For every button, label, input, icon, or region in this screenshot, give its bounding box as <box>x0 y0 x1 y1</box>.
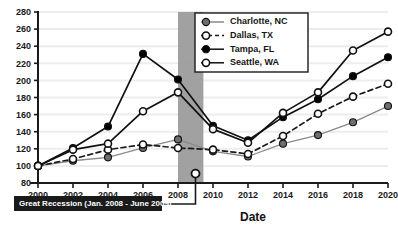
data-point <box>385 54 392 61</box>
data-point <box>350 47 357 54</box>
data-point <box>140 50 147 57</box>
data-point <box>315 132 322 139</box>
legend-marker-icon <box>202 59 209 66</box>
legend-marker-icon <box>202 32 209 39</box>
data-point <box>385 80 392 87</box>
x-axis-tick-label: 2010 <box>203 190 223 200</box>
x-axis-tick-label: 2016 <box>308 190 328 200</box>
chart-canvas: 80100120140160180200220240260280 2000200… <box>0 0 398 227</box>
data-point <box>175 144 182 151</box>
x-axis-tick-label: 2020 <box>378 190 398 200</box>
data-point <box>140 141 147 148</box>
data-point <box>315 96 322 103</box>
data-point <box>210 126 217 133</box>
data-point <box>350 119 357 126</box>
chart-legend[interactable]: Charlotte, NCDallas, TXTampa, FLSeattle,… <box>195 13 308 72</box>
data-point <box>350 93 357 100</box>
legend-label: Charlotte, NC <box>230 16 288 26</box>
data-point <box>70 156 77 163</box>
legend-label: Dallas, TX <box>230 30 273 40</box>
data-point <box>105 140 112 147</box>
data-point <box>280 132 287 139</box>
data-point <box>315 110 322 117</box>
data-point <box>140 108 147 115</box>
y-axis-tick-label: 180 <box>16 93 31 103</box>
y-axis-tick-label: 280 <box>16 7 31 17</box>
legend-label: Seattle, WA <box>230 57 280 67</box>
recession-callout: Great Recession (Jan. 2008 - June 2009) <box>14 196 172 211</box>
data-point <box>280 109 287 116</box>
data-point <box>105 123 112 130</box>
data-point <box>175 136 182 143</box>
data-point <box>70 146 77 153</box>
x-axis-tick-label: 2018 <box>343 190 363 200</box>
y-axis-tick-label: 260 <box>16 24 31 34</box>
y-axis-tick-label: 120 <box>16 144 31 154</box>
y-axis-tick-label: 140 <box>16 127 31 137</box>
y-axis-tick-label: 200 <box>16 76 31 86</box>
data-point <box>105 154 112 161</box>
data-point <box>385 103 392 110</box>
callout-pointer-marker <box>192 170 200 178</box>
data-point <box>175 89 182 96</box>
data-point <box>245 139 252 146</box>
data-point <box>175 76 182 83</box>
x-axis-title: Date <box>240 210 266 224</box>
x-axis-tick-label: 2014 <box>273 190 293 200</box>
data-point <box>35 162 42 169</box>
y-axis-tick-label: 240 <box>16 41 31 51</box>
y-axis-tick-label: 220 <box>16 59 31 69</box>
data-point <box>315 89 322 96</box>
legend-marker-icon <box>202 46 209 53</box>
data-point <box>350 73 357 80</box>
y-axis-tick-label: 80 <box>21 178 31 188</box>
data-point <box>210 146 217 153</box>
y-axis-tick-label: 100 <box>16 161 31 171</box>
legend-label: Tampa, FL <box>230 44 275 54</box>
legend-marker-icon <box>202 18 209 25</box>
line-chart: 80100120140160180200220240260280 2000200… <box>0 0 398 227</box>
x-axis-tick-label: 2012 <box>238 190 258 200</box>
data-point <box>280 140 287 147</box>
data-point <box>245 150 252 157</box>
data-point <box>385 28 392 35</box>
y-axis-tick-label: 160 <box>16 110 31 120</box>
callout-label: Great Recession (Jan. 2008 - June 2009) <box>19 199 172 208</box>
